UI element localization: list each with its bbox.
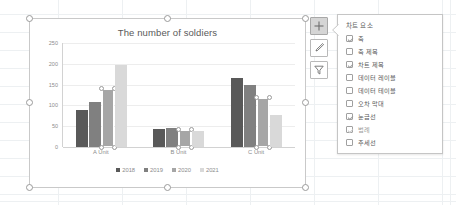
x-axis-tick-label: B Unit	[149, 149, 207, 155]
y-axis-tick-label: 200	[49, 61, 58, 67]
bar-2021-b-unit[interactable]	[192, 131, 204, 147]
plus-icon	[313, 20, 325, 32]
bar-2018-b-unit[interactable]	[153, 129, 165, 147]
checkbox-checked-icon[interactable]	[346, 113, 353, 120]
y-axis[interactable]: 250200150100500	[38, 43, 60, 147]
legend-swatch-icon	[172, 168, 176, 172]
chart-element-row[interactable]: 데이터 테이블	[346, 84, 437, 97]
chart-element-row[interactable]: 눈금선	[346, 110, 437, 123]
bar-group	[150, 43, 208, 147]
chart-element-label: 데이터 테이블	[358, 86, 396, 95]
chart-object[interactable]: The number of soldiers 250200150100500 A…	[29, 18, 306, 188]
panel-title: 차트 요소	[346, 20, 373, 30]
legend-item-2020[interactable]: 2020	[172, 167, 191, 173]
selection-handle-middle-left[interactable]	[26, 99, 33, 106]
bar-2021-c-unit[interactable]	[270, 115, 282, 147]
legend-item-2018[interactable]: 2018	[116, 167, 135, 173]
chart-element-row[interactable]: 데이터 레이블	[346, 71, 437, 84]
chart-element-label: 추세선	[358, 138, 376, 147]
legend-label: 2021	[206, 167, 219, 173]
y-axis-tick-label: 150	[49, 82, 58, 88]
x-axis-tick-label: C Unit	[227, 149, 285, 155]
checkbox-checked-icon[interactable]	[346, 126, 353, 133]
chart-elements-button[interactable]	[310, 17, 328, 35]
series-selection-handle[interactable]	[267, 95, 272, 100]
selection-handle-top-left[interactable]	[26, 15, 33, 22]
chart-element-row[interactable]: 축	[346, 32, 437, 45]
bar-2019-a-unit[interactable]	[89, 102, 101, 147]
x-axis-tick-label: A Unit	[72, 149, 130, 155]
legend-item-2019[interactable]: 2019	[144, 167, 163, 173]
y-axis-tick-label: 250	[49, 40, 58, 46]
checkbox-checked-icon[interactable]	[346, 35, 353, 42]
chart-filters-button[interactable]	[310, 61, 328, 79]
checkbox-checked-icon[interactable]	[346, 61, 353, 68]
plot-wrapper: 250200150100500 A UnitB UnitC Unit 20182…	[38, 43, 297, 179]
selection-handle-bottom-left[interactable]	[26, 184, 33, 191]
series-selection-handle[interactable]	[176, 127, 181, 132]
plot-area[interactable]	[62, 43, 295, 147]
legend-swatch-icon	[144, 168, 148, 172]
legend-label: 2019	[150, 167, 163, 173]
chart-element-label: 차트 제목	[358, 60, 384, 69]
bar-group	[73, 43, 131, 147]
chart-styles-button[interactable]	[310, 39, 328, 57]
bar-2021-a-unit[interactable]	[115, 65, 127, 147]
chart-element-row[interactable]: 범례	[346, 123, 437, 136]
bar-2018-c-unit[interactable]	[231, 78, 243, 147]
bar-2020-a-unit[interactable]	[102, 89, 114, 147]
selection-handle-top-right[interactable]	[302, 15, 309, 22]
bar-2020-c-unit[interactable]	[257, 98, 269, 147]
selection-handle-middle-right[interactable]	[302, 99, 309, 106]
checkbox-unchecked-icon[interactable]	[346, 139, 353, 146]
chart-title[interactable]: The number of soldiers	[30, 27, 305, 38]
selection-handle-bottom-right[interactable]	[302, 184, 309, 191]
chart-elements-list: 축축 제목차트 제목데이터 레이블데이터 테이블오차 막대눈금선범례추세선	[346, 32, 437, 149]
checkbox-unchecked-icon[interactable]	[346, 87, 353, 94]
selection-handle-top-middle[interactable]	[164, 15, 171, 22]
bar-group	[227, 43, 285, 147]
legend-item-2021[interactable]: 2021	[200, 167, 219, 173]
series-selection-handle[interactable]	[254, 95, 259, 100]
x-axis[interactable]: A UnitB UnitC Unit	[62, 149, 295, 155]
chart-element-row[interactable]: 추세선	[346, 136, 437, 149]
chart-legend[interactable]: 2018201920202021	[38, 167, 297, 173]
bar-2018-a-unit[interactable]	[76, 110, 88, 147]
chart-element-row[interactable]: 오차 막대	[346, 97, 437, 110]
series-selection-handle[interactable]	[99, 86, 104, 91]
funnel-icon	[313, 64, 325, 76]
legend-label: 2020	[178, 167, 191, 173]
y-axis-tick-label: 50	[52, 123, 58, 129]
chart-element-label: 범례	[358, 125, 370, 134]
chart-element-label: 축 제목	[358, 47, 378, 56]
chart-side-buttons	[310, 17, 328, 79]
panel-callout-arrow	[332, 22, 339, 34]
checkbox-unchecked-icon[interactable]	[346, 100, 353, 107]
checkbox-unchecked-icon[interactable]	[346, 74, 353, 81]
checkbox-unchecked-icon[interactable]	[346, 48, 353, 55]
chart-element-label: 오차 막대	[358, 99, 384, 108]
bar-2020-b-unit[interactable]	[179, 130, 191, 147]
paintbrush-icon	[313, 42, 325, 54]
y-axis-tick-label: 0	[55, 144, 58, 150]
legend-swatch-icon	[200, 168, 204, 172]
chart-element-row[interactable]: 차트 제목	[346, 58, 437, 71]
chart-element-label: 눈금선	[358, 112, 376, 121]
chart-element-label: 데이터 레이블	[358, 73, 396, 82]
bars-layer	[63, 43, 295, 147]
selection-handle-bottom-middle[interactable]	[164, 184, 171, 191]
legend-swatch-icon	[116, 168, 120, 172]
chart-element-label: 축	[358, 34, 364, 43]
y-axis-tick-label: 100	[49, 102, 58, 108]
chart-element-row[interactable]: 축 제목	[346, 45, 437, 58]
chart-elements-panel[interactable]: 차트 요소 축축 제목차트 제목데이터 레이블데이터 테이블오차 막대눈금선범례…	[337, 14, 443, 154]
legend-label: 2018	[122, 167, 135, 173]
